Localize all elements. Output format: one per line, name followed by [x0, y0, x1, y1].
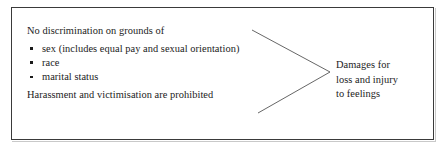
right-line: to feelings: [336, 87, 434, 102]
tail-line: Harassment and victimisation are prohibi…: [27, 88, 252, 103]
lower-connector-line: [258, 72, 330, 113]
lead-line: No discrimination on grounds of: [27, 24, 252, 39]
list-item: race: [27, 56, 252, 70]
list-item: marital status: [27, 70, 252, 84]
right-line: Damages for: [336, 58, 434, 73]
list-item-label: sex (includes equal pay and sexual orien…: [42, 43, 239, 54]
diagram-content: No discrimination on grounds of sex (inc…: [0, 0, 445, 152]
list-item-label: race: [42, 57, 60, 68]
upper-connector-line: [252, 30, 330, 72]
diagram-page: No discrimination on grounds of sex (inc…: [0, 0, 445, 152]
grounds-bullet-list: sex (includes equal pay and sexual orien…: [27, 42, 252, 85]
bullet-square-icon: [30, 61, 33, 64]
left-text-block: No discrimination on grounds of sex (inc…: [27, 24, 252, 103]
list-item: sex (includes equal pay and sexual orien…: [27, 42, 252, 56]
bullet-square-icon: [30, 47, 33, 50]
list-item-label: marital status: [42, 71, 98, 82]
bullet-square-icon: [30, 76, 33, 79]
right-line: loss and injury: [336, 73, 434, 88]
right-text-block: Damages for loss and injury to feelings: [336, 58, 434, 102]
